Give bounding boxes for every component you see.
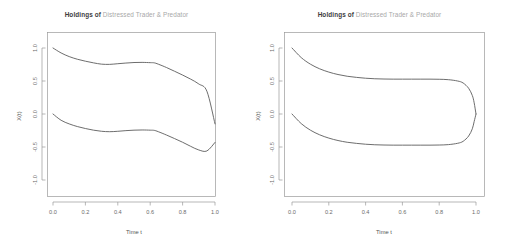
right-y-ticklabel-3: 0.5: [269, 77, 275, 85]
right-y-ticklabel-4: 1.0: [269, 44, 275, 52]
left-x-ticklabel-4: 0.8: [179, 209, 187, 215]
left-y-ticklabel-3: 0.5: [32, 77, 38, 85]
left-x-ticklabel-1: 0.2: [82, 209, 90, 215]
left-panel: Holdings of Distressed Trader & Predator…: [0, 0, 253, 252]
left-x-axis: 0.0 0.2 0.4 0.6 0.8 1.0: [49, 202, 219, 215]
right-x-axis: 0.0 0.2 0.4 0.6 0.8 1.0: [288, 202, 480, 215]
left-curve-distressed-trader: [53, 48, 215, 124]
right-x-ticklabel-0: 0.0: [288, 209, 296, 215]
right-x-ticklabel-4: 0.8: [435, 209, 443, 215]
left-y-ticklabel-2: 0.0: [32, 110, 38, 118]
right-x-ticklabel-2: 0.4: [362, 209, 370, 215]
right-plot-frame: [285, 33, 485, 197]
left-y-axis-title: X(t): [16, 111, 22, 120]
right-y-ticklabel-0: -1.0: [269, 175, 275, 185]
figure-root: Holdings of Distressed Trader & Predator…: [0, 0, 506, 252]
right-x-ticklabel-5: 1.0: [472, 209, 480, 215]
left-plot-canvas: 1.0 0.5 0.0 -0.5 -1.0 X(t) 0.0 0.2 0.4: [0, 0, 253, 252]
right-y-ticklabel-1: -0.5: [269, 142, 275, 152]
right-x-ticklabel-3: 0.6: [399, 209, 407, 215]
right-x-axis-title: Time t: [376, 229, 392, 235]
left-y-ticklabel-4: 1.0: [32, 44, 38, 52]
right-plot-canvas: 1.0 0.5 0.0 -0.5 -1.0 X(t) 0.0 0.2 0.4 0…: [253, 0, 506, 252]
left-curve-predator: [53, 114, 215, 151]
left-y-ticklabel-0: -1.0: [32, 175, 38, 185]
right-curve-distressed-trader: [292, 48, 476, 114]
right-y-axis-title: X(t): [255, 111, 261, 120]
left-x-axis-title: Time t: [126, 229, 142, 235]
right-y-ticklabel-2: 0.0: [269, 110, 275, 118]
right-y-axis: 1.0 0.5 0.0 -0.5 -1.0: [269, 44, 283, 185]
left-x-ticklabel-0: 0.0: [49, 209, 57, 215]
left-plot-frame: [48, 33, 216, 197]
left-x-ticklabel-3: 0.6: [146, 209, 154, 215]
right-x-ticklabel-1: 0.2: [325, 209, 333, 215]
left-y-axis: 1.0 0.5 0.0 -0.5 -1.0: [32, 44, 46, 185]
left-x-ticklabel-2: 0.4: [114, 209, 122, 215]
right-panel: Holdings of Distressed Trader & Predator…: [253, 0, 506, 252]
left-x-ticklabel-5: 1.0: [211, 209, 219, 215]
left-curves-group: [53, 48, 215, 151]
right-curve-predator: [292, 114, 476, 145]
left-y-ticklabel-1: -0.5: [32, 142, 38, 152]
right-curves-group: [292, 48, 476, 145]
